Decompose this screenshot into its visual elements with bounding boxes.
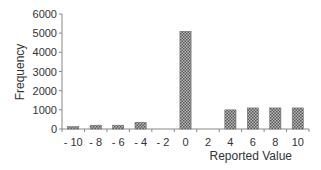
bar xyxy=(247,108,258,129)
x-tick-label: - 10 xyxy=(64,136,83,148)
y-tick-label: 6000 xyxy=(33,8,57,20)
x-tick-label: 10 xyxy=(292,136,304,148)
x-tick-label: 8 xyxy=(272,136,278,148)
x-tick-label: - 4 xyxy=(134,136,147,148)
x-tick-label: 6 xyxy=(250,136,256,148)
x-axis: - 10- 8- 6- 4- 20246810 xyxy=(62,129,309,148)
y-axis-title: Frequency xyxy=(13,44,27,101)
x-tick-label: 2 xyxy=(205,136,211,148)
bar xyxy=(180,31,191,129)
bar-chart: 0100020003000400050006000 - 10- 8- 6- 4-… xyxy=(0,0,321,170)
y-tick-label: 4000 xyxy=(33,46,57,58)
y-tick-label: 2000 xyxy=(33,85,57,97)
bar xyxy=(68,127,79,129)
x-tick-label: 4 xyxy=(227,136,233,148)
bars xyxy=(68,31,304,129)
bar xyxy=(225,110,236,129)
y-tick-label: 1000 xyxy=(33,104,57,116)
y-tick-label: 0 xyxy=(51,123,57,135)
x-tick-label: 0 xyxy=(182,136,188,148)
x-tick-label: - 8 xyxy=(89,136,102,148)
y-tick-label: 3000 xyxy=(33,66,57,78)
bar xyxy=(270,108,281,129)
x-tick-label: - 6 xyxy=(112,136,125,148)
x-tick-label: - 2 xyxy=(157,136,170,148)
bar xyxy=(135,122,146,129)
bar xyxy=(90,125,101,129)
bar xyxy=(292,108,303,129)
y-axis: 0100020003000400050006000 xyxy=(33,8,62,135)
bar xyxy=(113,125,124,129)
y-tick-label: 5000 xyxy=(33,27,57,39)
x-axis-title: Reported Value xyxy=(210,149,293,163)
